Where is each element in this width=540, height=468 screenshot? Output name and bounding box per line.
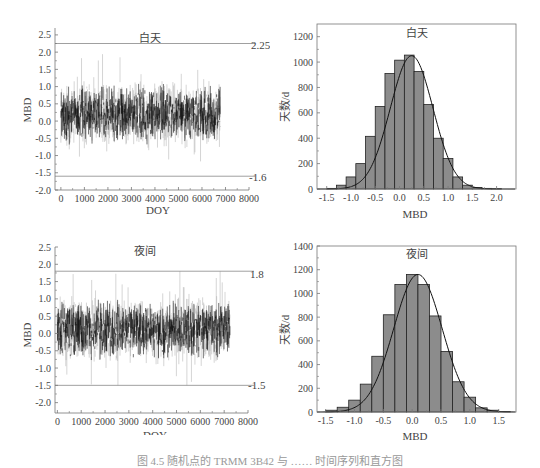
x-tick-label: 1.0 xyxy=(464,415,477,426)
ts-day-ylabel: MBD xyxy=(21,97,33,122)
histogram-bar xyxy=(372,356,384,412)
histogram-bar xyxy=(453,177,463,189)
x-tick-label: 1.0 xyxy=(442,192,455,203)
hist-day-ylabel: 天数/d xyxy=(279,91,291,122)
y-tick-label: 0.0 xyxy=(39,328,52,339)
y-tick-label: -0.5 xyxy=(35,345,51,356)
hist-night-bars xyxy=(317,274,515,412)
y-tick-label: 0 xyxy=(308,407,313,418)
y-tick-label: 1000 xyxy=(293,57,313,68)
y-tick-label: 1.5 xyxy=(39,276,52,287)
ts-night-title: 夜间 xyxy=(134,244,156,257)
y-tick-label: 200 xyxy=(298,383,313,394)
histogram-bar xyxy=(418,285,430,412)
y-tick-label: 400 xyxy=(298,133,313,144)
y-tick-label: 2.5 xyxy=(39,29,52,40)
y-tick-label: 0.5 xyxy=(39,311,52,322)
histogram-bar xyxy=(395,285,407,412)
x-tick-label: 2.0 xyxy=(490,192,503,203)
histogram-bar xyxy=(406,274,418,412)
y-tick-label: 2.0 xyxy=(39,259,52,270)
y-tick-label: 600 xyxy=(298,335,313,346)
ts-day-data-layer xyxy=(55,44,255,177)
ts-day-title: 白天 xyxy=(139,31,161,44)
x-tick-label: 0.0 xyxy=(393,192,406,203)
x-tick-label: 1000 xyxy=(71,416,91,427)
ts-night-xlabel: DOY xyxy=(143,429,167,435)
ts-day-refline-lower-label: -1.6 xyxy=(249,171,267,183)
y-tick-label: 2.0 xyxy=(39,47,52,58)
x-tick-label: 1.5 xyxy=(466,192,479,203)
y-tick-label: 1200 xyxy=(293,264,313,275)
x-tick-label: -0.5 xyxy=(375,415,391,426)
histogram-bar xyxy=(429,316,441,412)
x-tick-label: 5000 xyxy=(168,193,188,204)
y-tick-label: 2.5 xyxy=(39,242,52,253)
y-tick-label: -2.0 xyxy=(35,185,51,196)
histogram-bar xyxy=(433,138,443,189)
y-tick-label: 400 xyxy=(298,359,313,370)
y-tick-label: 1200 xyxy=(293,31,313,42)
y-tick-label: -1.5 xyxy=(35,167,51,178)
x-tick-label: 8000 xyxy=(239,193,259,204)
ts-day-refline-upper-label: 2.25 xyxy=(251,39,270,51)
ts-day-xlabel: DOY xyxy=(146,204,170,216)
y-tick-label: 1.0 xyxy=(39,293,52,304)
x-tick-label: 0.0 xyxy=(406,415,419,426)
histogram-bar xyxy=(356,164,366,189)
hist-day-xlabel: MBD xyxy=(402,208,427,220)
hist-day-bars xyxy=(317,55,515,189)
histogram-bar xyxy=(366,136,376,189)
ts-night-refline-upper-label: 1.8 xyxy=(250,268,264,280)
x-tick-label: 0.5 xyxy=(418,192,431,203)
y-tick-label: 800 xyxy=(298,82,313,93)
y-tick-label: -1.0 xyxy=(35,150,51,161)
y-tick-label: 600 xyxy=(298,107,313,118)
hist-day-title: 白天 xyxy=(406,26,428,39)
hist-night-chart: 0200400600800100012001400-1.5-1.0-0.50.0… xyxy=(270,225,540,450)
x-tick-label: 8000 xyxy=(238,416,258,427)
y-tick-label: 0.0 xyxy=(39,116,52,127)
y-tick-label: 1000 xyxy=(293,288,313,299)
y-tick-label: -1.0 xyxy=(35,363,51,374)
hist-night-ylabel: 天数/d xyxy=(279,314,291,345)
x-tick-label: -1.0 xyxy=(343,192,359,203)
x-tick-label: 0 xyxy=(58,193,63,204)
x-tick-label: 7000 xyxy=(215,193,235,204)
x-tick-label: 0.5 xyxy=(435,415,448,426)
x-tick-label: -0.5 xyxy=(367,192,383,203)
ts-night-chart: 2.52.01.51.00.50.0-0.5-1.0-1.5-2.0010002… xyxy=(0,225,270,435)
hist-night-xlabel: MBD xyxy=(402,430,427,442)
hist-day-chart: 020040060080010001200-1.5-1.0-0.50.00.51… xyxy=(270,0,540,225)
ts-night-refline-lower-label: -1.5 xyxy=(248,379,266,391)
y-tick-label: 1.5 xyxy=(39,64,52,75)
y-tick-label: -2.0 xyxy=(35,397,51,408)
x-tick-label: -1.5 xyxy=(318,415,334,426)
x-tick-label: 1.5 xyxy=(492,415,505,426)
x-tick-label: 3000 xyxy=(119,416,139,427)
x-tick-label: 1000 xyxy=(74,193,94,204)
y-tick-label: 800 xyxy=(298,312,313,323)
histogram-bar xyxy=(424,105,434,189)
histogram-bar xyxy=(395,60,405,189)
y-tick-label: 1.0 xyxy=(39,81,52,92)
histogram-bar xyxy=(441,352,453,412)
y-tick-label: 0.5 xyxy=(39,98,52,109)
x-tick-label: 0 xyxy=(55,416,60,427)
histogram-bar xyxy=(476,408,488,412)
y-tick-label: -0.5 xyxy=(35,133,51,144)
x-tick-label: 4000 xyxy=(145,193,165,204)
x-tick-label: 6000 xyxy=(192,193,212,204)
histogram-bar xyxy=(404,55,414,189)
x-tick-label: 4000 xyxy=(143,416,163,427)
x-tick-label: 5000 xyxy=(167,416,187,427)
y-tick-label: -1.5 xyxy=(35,380,51,391)
ts-day-chart: 2.52.01.51.00.50.0-0.5-1.0-1.5-2.0010002… xyxy=(0,0,270,225)
histogram-bar xyxy=(443,159,453,189)
x-tick-label: -1.0 xyxy=(347,415,363,426)
y-tick-label: 1400 xyxy=(293,241,313,252)
x-tick-label: 3000 xyxy=(121,193,141,204)
x-tick-label: 7000 xyxy=(214,416,234,427)
ts-night-ylabel: MBD xyxy=(21,322,33,347)
x-tick-label: 2000 xyxy=(95,416,115,427)
